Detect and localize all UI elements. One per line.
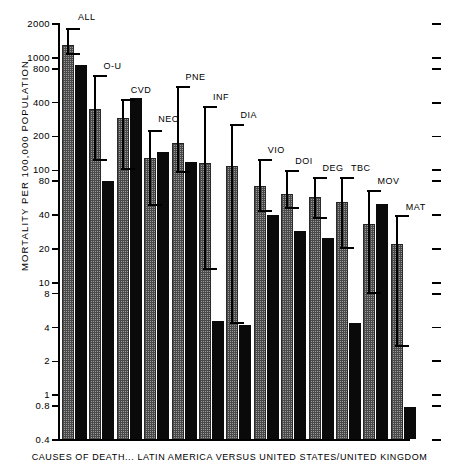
right-tick [432, 136, 441, 138]
series-label-deg: DEG [323, 163, 344, 173]
error-bar-cap-top [285, 170, 299, 172]
bar-us-uk[interactable] [239, 325, 251, 439]
bar-us-uk[interactable] [157, 152, 169, 439]
bar-us-uk[interactable] [349, 323, 361, 439]
right-tick [432, 439, 441, 441]
y-axis-line [58, 24, 60, 441]
error-bar-cap-bottom [395, 345, 409, 347]
bar-us-uk[interactable] [212, 321, 224, 439]
bar-latin-america[interactable] [172, 143, 184, 439]
y-tick-label: 40 [0, 209, 50, 219]
y-tick [52, 248, 60, 250]
bar-us-uk[interactable] [404, 407, 416, 439]
error-bar-cap-top [148, 130, 162, 132]
right-tick [432, 57, 441, 59]
right-tick [432, 394, 441, 396]
error-bar-cap-top [340, 177, 354, 179]
error-bar-cap-top [121, 99, 135, 101]
y-tick-label: 1 [0, 389, 50, 399]
y-tick-label: 100 [0, 164, 50, 174]
y-tick [52, 68, 60, 70]
series-label-cvd: CVD [131, 85, 152, 95]
error-bar [94, 75, 96, 161]
error-bar-cap-bottom [230, 322, 244, 324]
error-bar-cap-bottom [121, 168, 135, 170]
bar-group[interactable] [144, 0, 170, 439]
x-axis-line [58, 439, 410, 441]
bar-us-uk[interactable] [75, 65, 87, 439]
right-tick [432, 180, 441, 182]
bar-us-uk[interactable] [267, 215, 279, 439]
error-bar-cap-bottom [285, 207, 299, 209]
y-tick [52, 327, 60, 329]
bar-group[interactable] [336, 0, 362, 439]
right-tick [432, 360, 441, 362]
right-tick [432, 169, 441, 171]
y-tick-label: 0.8 [0, 400, 50, 410]
right-tick [432, 23, 441, 25]
y-tick [52, 439, 60, 441]
error-bar-cap-bottom [203, 268, 217, 270]
error-bar-cap-bottom [367, 292, 381, 294]
bar-group[interactable] [226, 0, 252, 439]
error-bar [314, 177, 316, 219]
y-tick [52, 394, 60, 396]
chart-canvas: MORTALITY PER 100,000 POPULATION 2000100… [0, 0, 459, 474]
error-bar-cap-top [230, 124, 244, 126]
error-bar-cap-top [258, 159, 272, 161]
error-bar [368, 190, 370, 294]
right-tick [432, 102, 441, 104]
series-label-all: ALL [78, 12, 96, 22]
bar-latin-america[interactable] [309, 197, 321, 439]
error-bar [177, 86, 179, 173]
right-tick [432, 214, 441, 216]
bar-us-uk[interactable] [130, 98, 142, 439]
series-label-doi: DOI [295, 156, 313, 166]
bar-us-uk[interactable] [322, 238, 334, 439]
bar-us-uk[interactable] [102, 181, 114, 439]
series-label-pne: PNE [186, 72, 206, 82]
y-tick [52, 405, 60, 407]
error-bar-cap-top [176, 86, 190, 88]
bar-group[interactable] [62, 0, 88, 439]
y-tick [52, 293, 60, 295]
error-bar [204, 106, 206, 270]
bar-group[interactable] [391, 0, 417, 439]
series-label-inf: INF [213, 92, 229, 102]
y-tick-label: 0.4 [0, 434, 50, 444]
bar-us-uk[interactable] [185, 162, 197, 439]
bar-us-uk[interactable] [294, 231, 306, 439]
bar-group[interactable] [199, 0, 225, 439]
y-tick [52, 136, 60, 138]
y-tick [52, 23, 60, 25]
bar-us-uk[interactable] [376, 204, 388, 439]
series-label-o-u: O-U [103, 61, 121, 71]
y-tick [52, 361, 60, 363]
error-bar [149, 130, 151, 207]
series-label-tbc: TBC [351, 163, 371, 173]
bar-group[interactable] [254, 0, 280, 439]
right-tick [432, 327, 441, 329]
y-tick [52, 170, 60, 172]
bar-latin-america[interactable] [62, 45, 74, 439]
error-bar [341, 177, 343, 249]
y-tick [52, 57, 60, 59]
bar-latin-america[interactable] [281, 194, 293, 439]
y-tick [52, 102, 60, 104]
error-bar-cap-bottom [340, 247, 354, 249]
y-tick [52, 282, 60, 284]
bar-group[interactable] [363, 0, 389, 439]
right-tick [432, 282, 441, 284]
series-label-dia: DIA [240, 110, 257, 120]
bar-group[interactable] [172, 0, 198, 439]
bar-group[interactable] [281, 0, 307, 439]
y-tick-label: 200 [0, 130, 50, 140]
y-tick-label: 800 [0, 63, 50, 73]
y-tick-label: 20 [0, 243, 50, 253]
y-tick-label: 2000 [0, 18, 50, 28]
error-bar-cap-top [66, 28, 80, 30]
bar-group[interactable] [309, 0, 335, 439]
bar-latin-america[interactable] [254, 186, 266, 439]
right-tick [432, 248, 441, 250]
error-bar-cap-bottom [66, 53, 80, 55]
